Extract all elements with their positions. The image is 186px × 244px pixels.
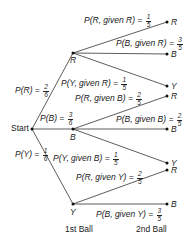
prob-r-given-y-label: P(R, given Y) = 25 — [76, 171, 143, 185]
prob-b-given-y-label: P(B, given Y) = 35 — [96, 208, 162, 222]
leaf-r-b: B — [171, 50, 177, 59]
leaf-y-r: R — [171, 166, 177, 175]
prob-y-given-b-label: P(Y, given B) = 15 — [53, 152, 119, 166]
first-node-r: R — [70, 56, 76, 65]
prob-r-given-r-label: P(R, given R) = 15 — [84, 14, 151, 28]
prob-r-label: P(R) = 26 — [15, 84, 49, 98]
second-ball-label: 2nd Ball — [136, 225, 167, 234]
leaf-y-b: B — [171, 200, 177, 209]
start-node-label: Start — [11, 124, 29, 133]
prob-y-label: P(Y) = 16 — [15, 148, 48, 162]
leaf-r-y: Y — [171, 82, 177, 91]
leaf-r-r: R — [171, 18, 177, 27]
first-ball-label: 1st Ball — [65, 225, 93, 234]
prob-r-given-b-label: P(R, given B) = 25 — [75, 92, 142, 106]
leaf-b-b: B — [171, 125, 177, 134]
prob-y-given-r-label: P(Y, given R) = 15 — [61, 77, 127, 91]
leaf-b-r: R — [171, 92, 177, 101]
prob-b-label: P(B) = 36 — [40, 112, 73, 126]
first-node-y: Y — [70, 208, 76, 217]
first-node-b: B — [70, 133, 76, 142]
